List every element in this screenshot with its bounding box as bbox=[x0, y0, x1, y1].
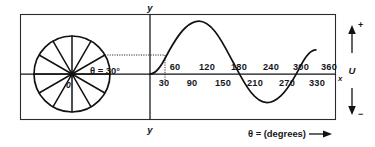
tick-label-240: 240 bbox=[263, 62, 279, 72]
amplitude-label: U bbox=[349, 65, 357, 76]
sine-wave-generation-figure: 60 120 180 240 300 360 30 90 150 210 270… bbox=[0, 0, 375, 147]
figure-canvas: 60 120 180 240 300 360 30 90 150 210 270… bbox=[0, 0, 375, 147]
tick-label-300: 300 bbox=[293, 62, 309, 72]
y-axis-label-bottom: y bbox=[146, 124, 153, 135]
tick-label-90: 90 bbox=[187, 78, 198, 88]
angle-annotation-label: θ = 30° bbox=[90, 65, 120, 76]
positive-sign-label: + bbox=[358, 20, 363, 30]
amplitude-arrow-up-head bbox=[348, 25, 356, 34]
x-axis-label: x bbox=[337, 74, 343, 83]
tick-label-210: 210 bbox=[247, 78, 263, 88]
caption-arrow-head bbox=[323, 130, 332, 137]
tick-label-150: 150 bbox=[215, 78, 231, 88]
y-axis-label-top: y bbox=[146, 2, 153, 13]
negative-sign-label: − bbox=[358, 109, 363, 119]
amplitude-arrow-down-head bbox=[348, 106, 356, 115]
tick-label-60: 60 bbox=[170, 62, 181, 72]
tick-label-360: 360 bbox=[321, 62, 337, 72]
tick-label-330: 330 bbox=[309, 78, 325, 88]
tick-label-30: 30 bbox=[159, 78, 170, 88]
amplitude-indicator: + − U bbox=[348, 20, 363, 119]
phasor-center-hub bbox=[69, 71, 74, 76]
origin-label: 0 bbox=[66, 80, 71, 90]
tick-label-270: 270 bbox=[279, 78, 295, 88]
x-axis-caption-group: θ = (degrees) bbox=[248, 128, 332, 139]
tick-label-180: 180 bbox=[231, 62, 247, 72]
tick-label-120: 120 bbox=[199, 62, 215, 72]
x-axis-caption: θ = (degrees) bbox=[248, 128, 306, 139]
